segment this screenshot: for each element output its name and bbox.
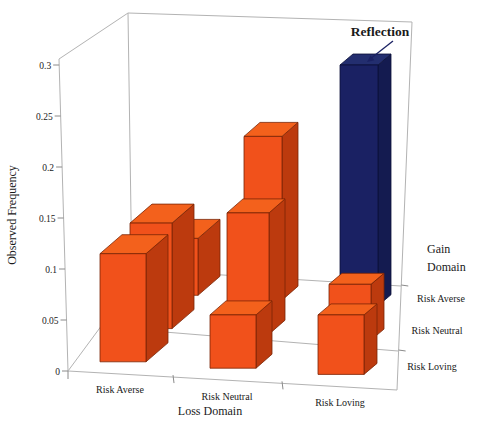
- loss-category-label: Risk Loving: [315, 397, 365, 408]
- bars: [100, 54, 391, 374]
- right-vertical-edge: [397, 22, 412, 390]
- back-wall-top-edge: [128, 13, 412, 22]
- value-tick-label: 0.3: [39, 61, 51, 71]
- loss-category-label: Risk Averse: [96, 384, 144, 395]
- gain-domain-axis: Risk AverseRisk NeutralRisk LovingGainDo…: [399, 242, 466, 372]
- value-axis: 00.050.10.150.20.250.3: [36, 61, 68, 377]
- gain-axis-tick: [401, 285, 408, 286]
- gain-category-label: Risk Neutral: [412, 325, 463, 336]
- left-wall-top-edge: [59, 13, 128, 59]
- observed-frequency-3d-chart: 00.050.10.150.20.250.3Observed Frequency…: [0, 0, 477, 432]
- value-axis-line: [59, 59, 68, 371]
- z-axis-title-line2: Domain: [427, 260, 466, 274]
- bar-loss-riskloving-gain-riskaverse: [340, 54, 391, 306]
- bar-loss-riskaverse-gain-riskloving: [100, 235, 168, 362]
- loss-category-label: Risk Neutral: [202, 391, 253, 402]
- loss-axis-tick: [173, 375, 174, 383]
- z-axis-title-line1: Gain: [427, 242, 450, 256]
- gain-category-label: Risk Loving: [407, 361, 457, 372]
- bar-loss-riskneutral-gain-riskloving: [210, 301, 272, 368]
- gain-axis-tick: [399, 350, 406, 351]
- bar-loss-riskneutral-gain-riskloving-front: [210, 315, 256, 368]
- value-tick-label: 0.2: [42, 163, 54, 173]
- bar-loss-riskloving-gain-riskaverse-side: [378, 54, 391, 306]
- value-tick-label: 0.15: [39, 214, 56, 224]
- bar-loss-riskloving-gain-riskloving: [318, 304, 377, 375]
- bar-loss-riskloving-gain-riskloving-side: [364, 304, 377, 375]
- bar-loss-riskaverse-gain-riskneutral-side: [172, 204, 194, 329]
- y-axis-title: Observed Frequency: [5, 165, 19, 265]
- reflection-label: Reflection: [351, 24, 410, 39]
- bar-loss-riskloving-gain-riskloving-front: [318, 315, 364, 375]
- gain-category-label: Risk Averse: [417, 293, 465, 304]
- loss-domain-axis: Risk AverseRisk NeutralRisk LovingLoss D…: [68, 371, 365, 418]
- bar-loss-riskaverse-gain-riskloving-front: [100, 254, 146, 362]
- value-tick-label: 0.1: [45, 265, 57, 275]
- value-tick-label: 0.25: [36, 112, 53, 122]
- 3d-bar-chart-figure: 00.050.10.150.20.250.3Observed Frequency…: [0, 0, 477, 432]
- bar-loss-riskloving-gain-riskaverse-front: [340, 65, 378, 306]
- x-axis-title: Loss Domain: [178, 404, 242, 418]
- value-tick-label: 0: [55, 367, 60, 377]
- value-tick-label: 0.05: [42, 316, 59, 326]
- loss-axis-tick: [282, 381, 283, 389]
- bar-loss-riskaverse-gain-riskloving-side: [146, 235, 168, 362]
